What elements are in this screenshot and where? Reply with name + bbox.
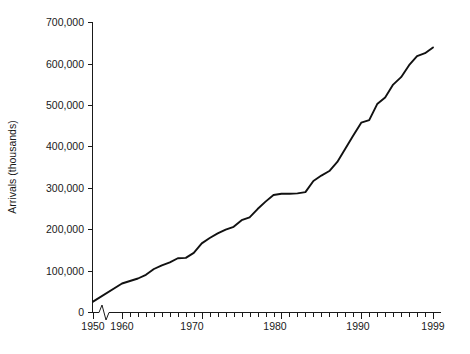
y-axis-ticks bbox=[88, 23, 93, 313]
x-tick-label: 1960 bbox=[110, 320, 134, 332]
y-tick-label: 300,000 bbox=[46, 182, 84, 194]
y-tick-label: 500,000 bbox=[46, 99, 84, 111]
y-tick-label: 100,000 bbox=[46, 265, 84, 277]
chart-container: 0 100,000 200,000 300,000 400,000 500,00… bbox=[0, 0, 470, 354]
x-tick-label: 1990 bbox=[346, 320, 370, 332]
y-axis-title: Arrivals (thousands) bbox=[6, 120, 18, 213]
x-tick-label: 1970 bbox=[180, 320, 204, 332]
x-tick-label: 1999 bbox=[421, 320, 445, 332]
data-series-line bbox=[93, 47, 433, 301]
y-axis-tick-labels: 0 100,000 200,000 300,000 400,000 500,00… bbox=[46, 16, 84, 318]
axis-break-icon bbox=[99, 305, 109, 320]
y-tick-label: 700,000 bbox=[46, 16, 84, 28]
y-tick-label: 600,000 bbox=[46, 58, 84, 70]
x-tick-label: 1980 bbox=[263, 320, 287, 332]
y-tick-label: 400,000 bbox=[46, 140, 84, 152]
line-chart: 0 100,000 200,000 300,000 400,000 500,00… bbox=[0, 0, 470, 354]
y-tick-label: 200,000 bbox=[46, 223, 84, 235]
x-axis-tick-labels: 1950 1960 1970 1980 1990 1999 bbox=[81, 320, 445, 332]
x-tick-label: 1950 bbox=[81, 320, 105, 332]
x-axis-ticks bbox=[94, 313, 434, 319]
y-tick-label: 0 bbox=[78, 306, 84, 318]
